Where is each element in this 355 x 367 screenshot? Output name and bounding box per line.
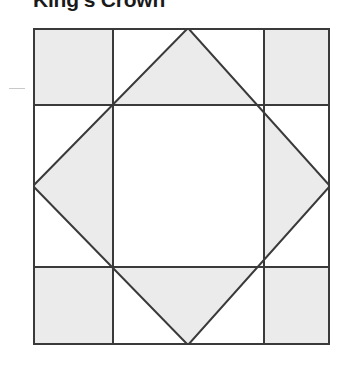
corner-square-top-left — [33, 28, 113, 105]
kings-crown-quilt-block — [33, 28, 330, 345]
center-square — [113, 105, 264, 267]
corner-square-bottom-left — [33, 267, 113, 345]
page-title: King's Crown — [33, 0, 165, 12]
tick-mark — [9, 88, 25, 89]
corner-square-top-right — [264, 28, 330, 105]
quilt-block-svg — [33, 28, 330, 345]
corner-square-bottom-right — [264, 267, 330, 345]
